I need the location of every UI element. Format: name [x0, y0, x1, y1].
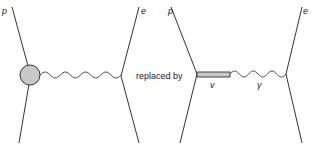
left-proton-incoming-line	[12, 7, 28, 66]
left-photon-wavy-line	[40, 72, 121, 78]
left-p-label: p	[1, 6, 7, 16]
left-vertex-blob	[20, 65, 40, 85]
right-e-label: e	[303, 6, 308, 16]
right-electron-outgoing-line	[286, 74, 302, 143]
left-diagram: p e	[1, 6, 146, 143]
left-e-label: e	[141, 6, 146, 16]
left-electron-outgoing-line	[121, 76, 139, 143]
right-proton-incoming-line	[171, 7, 197, 74]
feynman-diagram: p e replaced by p e v γ	[0, 0, 312, 154]
right-electron-incoming-line	[286, 7, 302, 74]
vector-meson-label: v	[210, 80, 215, 90]
right-diagram: p e v γ	[167, 6, 308, 143]
replaced-by-text: replaced by	[136, 71, 183, 81]
right-vector-meson-bar	[197, 72, 230, 77]
left-electron-incoming-line	[121, 7, 139, 76]
photon-gamma-label: γ	[257, 80, 262, 90]
left-proton-outgoing-line	[19, 84, 29, 143]
right-proton-outgoing-line	[180, 74, 197, 143]
right-photon-wavy-line	[230, 71, 286, 77]
right-p-label: p	[167, 6, 173, 16]
